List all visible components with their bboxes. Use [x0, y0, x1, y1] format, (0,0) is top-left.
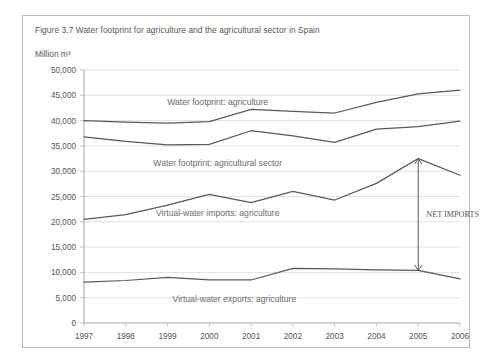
x-axis-tick-label: 1999 — [158, 332, 177, 341]
series-label-0: Water footprint: agriculture — [167, 97, 268, 107]
net-imports-label: NET IMPORTS — [426, 210, 479, 219]
y-axis-tick-label: 30,000 — [51, 167, 76, 176]
y-axis-tick-label: 25,000 — [51, 193, 76, 202]
y-axis-tick-label: 10,000 — [51, 268, 76, 277]
series-line-1 — [84, 121, 460, 145]
y-axis-tick-label: 45,000 — [51, 91, 76, 100]
y-axis-tick-label: 40,000 — [51, 117, 76, 126]
y-axis-tick-label: 50,000 — [51, 66, 76, 75]
y-axis-tick-label: 20,000 — [51, 218, 76, 227]
y-axis-tick-label: 15,000 — [51, 243, 76, 252]
x-axis-tick-label: 2002 — [284, 332, 303, 341]
x-axis-tick-label: 2006 — [451, 332, 470, 341]
x-axis-tick-label: 2000 — [200, 332, 219, 341]
x-axis-tick-label: 2004 — [367, 332, 386, 341]
series-label-3: Virtual-water exports: agriculture — [173, 294, 297, 304]
y-axis-tick-label: 5,000 — [56, 294, 77, 303]
line-chart: 05,00010,00015,00020,00025,00030,00035,0… — [0, 0, 489, 362]
y-axis-tick-label: 35,000 — [51, 142, 76, 151]
y-axis-tick-label: 0 — [71, 319, 76, 328]
x-axis-tick-label: 1998 — [117, 332, 136, 341]
x-axis-tick-label: 2005 — [409, 332, 428, 341]
series-label-1: Water footprint: agricultural sector — [153, 158, 282, 168]
x-axis-tick-label: 2003 — [326, 332, 345, 341]
chart-plot-area: 05,00010,00015,00020,00025,00030,00035,0… — [0, 0, 489, 362]
x-axis-tick-label: 1997 — [75, 332, 94, 341]
series-label-2: Virtual-water imports: agriculture — [156, 208, 280, 218]
x-axis-tick-label: 2001 — [242, 332, 261, 341]
series-line-3 — [84, 268, 460, 282]
net-imports-annotation: NET IMPORTS — [415, 159, 480, 271]
